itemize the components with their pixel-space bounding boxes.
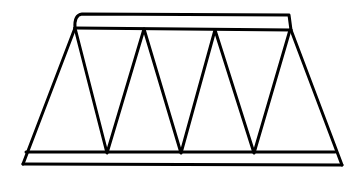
web-diagonals xyxy=(75,28,290,153)
left-end-post xyxy=(23,28,75,164)
top-chord-inner xyxy=(75,28,291,30)
truss-bridge-diagram xyxy=(0,0,363,178)
bottom-chord-lower xyxy=(23,164,342,165)
right-end-post xyxy=(291,30,342,165)
